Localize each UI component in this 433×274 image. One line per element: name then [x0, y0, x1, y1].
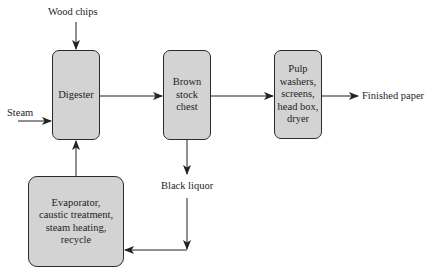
evaporator-box: Evaporator, caustic treatment, steam hea…	[28, 176, 124, 267]
steam-label: Steam	[7, 107, 33, 119]
evaporator-label: Evaporator, caustic treatment, steam hea…	[39, 197, 113, 247]
finished-paper-label: Finished paper	[362, 90, 424, 102]
wood-chips-label: Wood chips	[48, 6, 98, 18]
pulp-processing-box: Pulp washers, screens, head box, dryer	[274, 50, 322, 139]
brown-stock-chest-box: Brown stock chest	[163, 50, 211, 140]
pulp-paper-process-diagram: Wood chips Steam Digester Brown stock ch…	[0, 0, 433, 274]
black-liquor-label: Black liquor	[161, 180, 213, 192]
brown-stock-chest-label: Brown stock chest	[173, 76, 202, 114]
pulp-processing-label: Pulp washers, screens, head box, dryer	[278, 63, 319, 126]
digester-box: Digester	[52, 50, 100, 140]
digester-label: Digester	[58, 89, 94, 102]
